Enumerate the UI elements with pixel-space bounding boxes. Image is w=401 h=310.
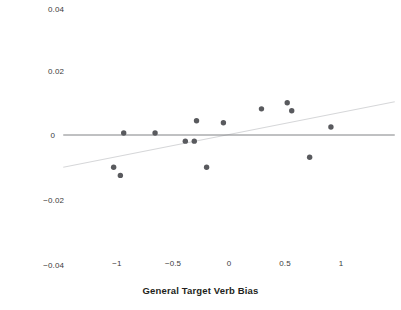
- y-tick-label: 0.02: [18, 67, 64, 76]
- data-point: [192, 138, 197, 143]
- y-tick-label: −0.04: [14, 261, 64, 270]
- x-tick-label: 0: [227, 259, 232, 268]
- data-point: [289, 108, 294, 113]
- data-point: [259, 106, 264, 111]
- data-point: [121, 130, 126, 135]
- data-point: [111, 165, 116, 170]
- data-point: [221, 120, 226, 125]
- y-tick-label: 0: [18, 131, 55, 140]
- data-point: [285, 100, 290, 105]
- x-tick-label: −1: [112, 259, 121, 268]
- data-points: [111, 100, 334, 178]
- data-point: [118, 173, 123, 178]
- scatter-plot-figure: 0.04 0.02 0 −0.02 −0.04 −1 −0.5 0 0.5 1 …: [0, 0, 401, 310]
- x-tick-label: 0.5: [279, 259, 290, 268]
- y-tick-label: 0.04: [18, 5, 64, 14]
- data-point: [194, 118, 199, 123]
- x-tick-label: −0.5: [165, 259, 181, 268]
- data-point: [307, 155, 312, 160]
- x-axis-title: General Target Verb Bias: [0, 285, 401, 296]
- x-tick-label: 1: [339, 259, 344, 268]
- data-point: [183, 138, 188, 143]
- data-point: [204, 165, 209, 170]
- data-point: [152, 130, 157, 135]
- data-point: [328, 124, 333, 129]
- y-tick-label: −0.02: [14, 196, 64, 205]
